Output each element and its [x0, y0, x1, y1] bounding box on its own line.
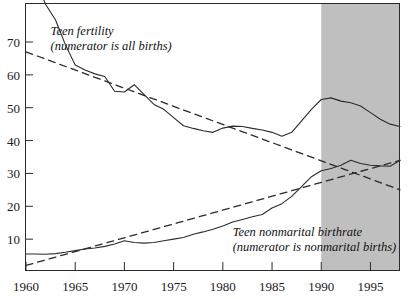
- y-tick-label: 70: [7, 35, 20, 50]
- teen-fertility-label-line1: Teen fertility: [51, 24, 115, 38]
- x-tick-label: 1975: [161, 279, 187, 294]
- x-tick-label: 1960: [13, 279, 39, 294]
- y-tick-label: 50: [7, 101, 20, 116]
- x-axis-tick-labels: 19601965197019751980198519901995: [13, 279, 383, 294]
- y-tick-label: 20: [7, 199, 20, 214]
- y-axis-ticks: [26, 42, 33, 239]
- y-axis-tick-labels: 10203040506070: [7, 35, 20, 247]
- teen-birthrate-line-chart: 10203040506070 1960196519701975198019851…: [0, 0, 408, 299]
- teen-fertility-label-line2: (numerator is all births): [51, 39, 172, 53]
- y-tick-label: 30: [7, 166, 20, 181]
- x-tick-label: 1995: [357, 279, 383, 294]
- x-tick-label: 1985: [259, 279, 285, 294]
- x-tick-label: 1970: [111, 279, 137, 294]
- x-tick-label: 1965: [62, 279, 88, 294]
- y-tick-label: 40: [7, 134, 20, 149]
- x-tick-label: 1990: [308, 279, 334, 294]
- teen-fertility-label: Teen fertility(numerator is all births): [51, 24, 172, 53]
- y-tick-label: 10: [7, 232, 20, 247]
- teen-nonmarital-label-line1: Teen nonmarital birthrate: [233, 225, 363, 239]
- x-tick-label: 1980: [210, 279, 236, 294]
- y-tick-label: 60: [7, 68, 20, 83]
- x-axis-ticks: [26, 262, 370, 270]
- teen-nonmarital-label-line2: (numerator is nonmarital births): [233, 240, 397, 254]
- chart-container: 10203040506070 1960196519701975198019851…: [0, 0, 408, 299]
